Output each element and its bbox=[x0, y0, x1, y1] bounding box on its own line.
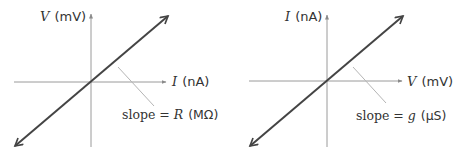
slope-label: slope = g(µS) bbox=[356, 108, 446, 123]
conductance-plot: I(nA) V(mV) slope = g(µS) bbox=[249, 9, 453, 147]
x-axis-label: I(nA) bbox=[171, 74, 209, 89]
y-axis-label: V(mV) bbox=[40, 9, 86, 24]
slope-label: slope = R(MΩ) bbox=[122, 107, 218, 122]
slope-leader-line bbox=[118, 67, 154, 106]
iv-diagrams: V(mV) I(nA) slope = R(MΩ) I(nA) V(mV) sl… bbox=[0, 0, 463, 158]
resistance-plot: V(mV) I(nA) slope = R(MΩ) bbox=[14, 9, 218, 147]
y-axis-label: I(nA) bbox=[284, 9, 322, 24]
slope-leader-line bbox=[353, 67, 386, 103]
x-axis-label: V(mV) bbox=[407, 74, 453, 89]
